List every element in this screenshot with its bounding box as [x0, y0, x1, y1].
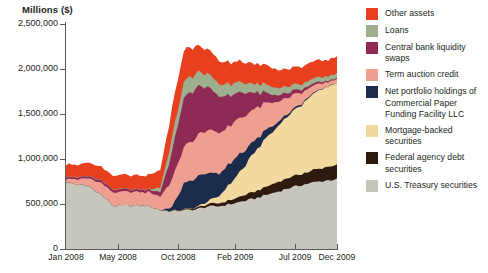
y-tick: [60, 249, 66, 250]
legend-loans: Loans: [366, 25, 488, 37]
y-tick-label: 500,000: [25, 199, 58, 208]
legend-swatch-icon: [366, 42, 378, 54]
y-tick-label: 1,000,000: [18, 154, 58, 163]
legend-swatch-icon: [366, 8, 378, 20]
legend-label: Central bank liquidity swaps: [385, 42, 487, 64]
legend-label: U.S. Treasury securities: [385, 180, 477, 191]
y-axis-title: Millions ($): [22, 4, 73, 15]
legend-term-auction-credit: Term auction credit: [366, 69, 488, 81]
stacked-area-chart-figure: Millions ($) 2,500,0002,000,0001,500,000…: [0, 0, 488, 273]
x-axis-line: [65, 249, 338, 250]
legend-federal-agency-debt-securities: Federal agency debt securities: [366, 152, 488, 174]
legend-label: Net portfolio holdings of Commercial Pap…: [385, 86, 487, 120]
x-tick-label: Jan 2008: [36, 252, 96, 262]
x-tick-label: Feb 2009: [205, 252, 265, 262]
legend-cpff: Net portfolio holdings of Commercial Pap…: [366, 86, 488, 120]
y-tick-label: 2,500,000: [18, 19, 58, 28]
legend-label: Term auction credit: [385, 69, 458, 80]
x-tick-label: Oct 2008: [148, 252, 208, 262]
legend-swatch-icon: [366, 69, 378, 81]
x-tick: [337, 244, 338, 250]
y-tick: [60, 114, 66, 115]
x-tick: [295, 244, 296, 250]
y-axis-line: [65, 22, 66, 250]
legend-us-treasury-securities: U.S. Treasury securities: [366, 180, 488, 192]
legend-label: Loans: [385, 25, 409, 36]
legend-label: Other assets: [385, 8, 434, 19]
legend-mortgage-backed-securities: Mortgage-backed securities: [366, 125, 488, 147]
x-tick-label: Dec 2009: [307, 252, 367, 262]
legend-swatch-icon: [366, 125, 378, 137]
legend-swatch-icon: [366, 152, 378, 164]
x-tick: [235, 244, 236, 250]
legend-other-assets: Other assets: [366, 8, 488, 20]
legend-label: Mortgage-backed securities: [385, 125, 487, 147]
legend-swatch-icon: [366, 25, 378, 37]
x-tick: [118, 244, 119, 250]
y-tick-label: 1,500,000: [18, 109, 58, 118]
y-tick: [60, 24, 66, 25]
x-tick: [178, 244, 179, 250]
legend-swatch-icon: [366, 180, 378, 192]
legend-label: Federal agency debt securities: [385, 152, 487, 174]
y-tick: [60, 204, 66, 205]
legend-central-bank-liquidity-swaps: Central bank liquidity swaps: [366, 42, 488, 64]
y-tick: [60, 159, 66, 160]
chart-legend: Other assetsLoansCentral bank liquidity …: [366, 8, 488, 197]
plot-area: [66, 24, 337, 249]
y-tick: [60, 69, 66, 70]
y-tick-label: 2,000,000: [18, 64, 58, 73]
x-tick-label: May 2008: [88, 252, 148, 262]
legend-swatch-icon: [366, 86, 378, 98]
